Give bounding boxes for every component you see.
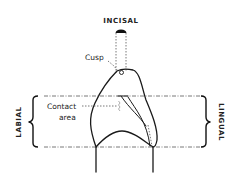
cusp-label: Cusp [85,53,104,62]
contact-area-label-line1: Contact [47,102,76,111]
incisal-cap-marker [116,30,127,34]
labial-label: LABIAL [15,106,23,137]
cervical-line [96,131,153,147]
incisal-label: INCISAL [103,17,138,25]
lingual-ridge-outer [128,97,150,146]
tooth-crown-outline [91,69,158,147]
tooth-contact-diagram: INCISAL Cusp Contact area LABIAL LINGUAL [0,0,238,178]
lingual-ridge-inner [121,96,146,126]
lingual-brace [201,96,210,147]
cusp-marker [120,71,124,75]
contact-area-marker [119,101,121,111]
cusp-leader-line [108,61,118,71]
contact-area-label-line2: area [59,113,76,122]
lingual-label: LINGUAL [217,103,225,141]
labial-brace [29,96,38,147]
